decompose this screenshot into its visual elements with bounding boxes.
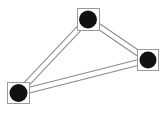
- node-right: [138, 50, 159, 71]
- node-dot-icon: [140, 52, 157, 69]
- node-top: [78, 9, 100, 31]
- node-left: [8, 83, 30, 104]
- node-dot-icon: [79, 11, 97, 29]
- network-diagram: [0, 0, 162, 120]
- node-dot-icon: [10, 84, 28, 102]
